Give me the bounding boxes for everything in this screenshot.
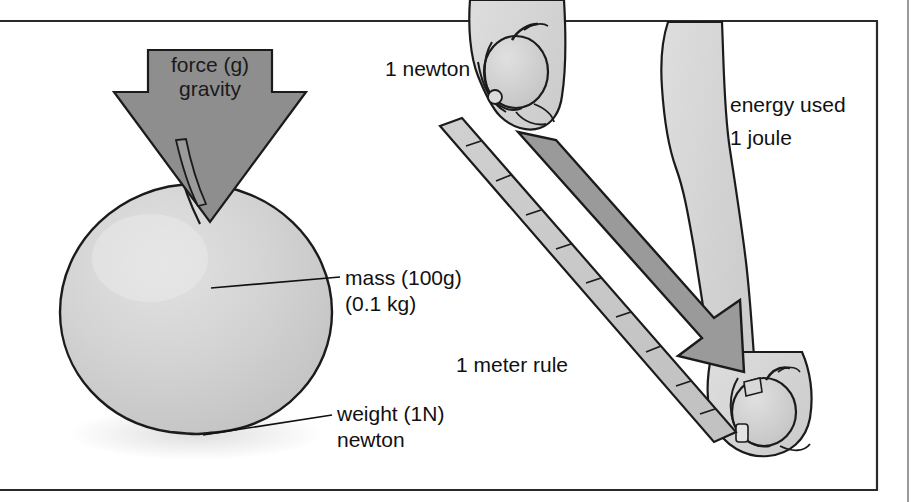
upper-hand-fingertip [488,90,502,104]
mass-label-line1: mass (100g) [345,266,462,289]
force-gravity-label-line2: gravity [179,77,241,100]
meter-rule-label: 1 meter rule [456,353,568,376]
weight-label-line2: newton [337,428,405,451]
lower-hand-fingertip [736,424,748,442]
energy-used-label-line2: 1 joule [730,126,792,149]
weight-label-line1: weight (1N) [336,402,444,425]
lower-hand-thumbnail [744,378,762,396]
mass-label-line2: (0.1 kg) [345,292,416,315]
apple-body [60,184,332,434]
figure-canvas: force (g) gravity mass (100g) (0.1 kg) w… [0,0,915,502]
force-gravity-label-line1: force (g) [171,53,249,76]
apple-large [60,184,332,434]
one-newton-label: 1 newton [385,57,470,80]
apple-highlight [92,214,208,302]
energy-used-label-line1: energy used [730,93,846,116]
